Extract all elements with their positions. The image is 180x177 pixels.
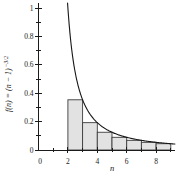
y-tick-label: 1	[30, 4, 34, 13]
chart-canvas: 0246800.20.40.60.81	[0, 0, 180, 177]
riemann-bar	[83, 123, 98, 150]
x-tick-label: 6	[125, 157, 129, 166]
y-tick-label: 0	[30, 146, 34, 155]
y-tick-label: 0.8	[24, 32, 34, 41]
y-tick-label: 0.4	[24, 89, 34, 98]
y-tick-label: 0.2	[24, 117, 34, 126]
x-tick-label: 2	[66, 157, 70, 166]
figure-container: 0246800.20.40.60.81 f(n) = (n − 1)−3/2 n	[0, 0, 180, 177]
x-tick-label: 4	[95, 157, 99, 166]
y-tick-label: 0.6	[24, 60, 34, 69]
x-axis-title: n	[110, 164, 114, 173]
x-tick-label: 0	[38, 157, 42, 166]
riemann-bar	[127, 140, 142, 150]
y-axis-title-exponent: −3/2	[3, 56, 9, 68]
riemann-bar	[156, 144, 171, 150]
riemann-bar	[97, 132, 112, 150]
x-tick-label: 8	[154, 157, 158, 166]
y-axis-title-text: f(n) = (n − 1)	[4, 68, 13, 112]
riemann-bar	[112, 137, 127, 150]
riemann-bar	[141, 142, 156, 150]
riemann-bar	[68, 100, 83, 150]
